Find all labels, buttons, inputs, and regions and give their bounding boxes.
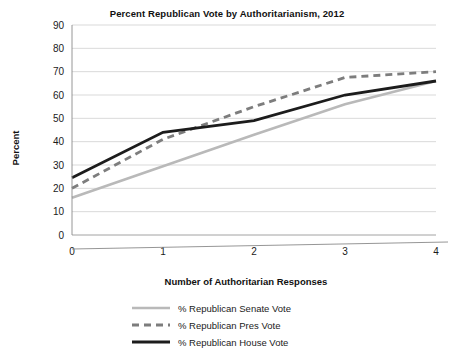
y-axis-tick-label: 30 — [53, 160, 65, 171]
y-axis-tick-label: 40 — [53, 136, 65, 147]
x-axis-tick-label: 2 — [251, 246, 257, 257]
series-line-0 — [72, 81, 436, 198]
y-axis-tick-label: 10 — [53, 206, 65, 217]
legend-label-1: % Republican Pres Vote — [178, 320, 280, 331]
axis-lines-group — [72, 25, 448, 249]
x-axis-tick-label: 0 — [69, 246, 75, 257]
y-axis-tick-label: 60 — [53, 90, 65, 101]
y-axis-tick-label: 90 — [53, 20, 65, 31]
chart-figure: Percent Republican Vote by Authoritarian… — [0, 0, 454, 351]
y-axis-tick-labels: 0102030405060708090 — [53, 20, 65, 241]
x-axis-title: Number of Authoritarian Responses — [165, 276, 328, 287]
chart-legend: % Republican Senate Vote% Republican Pre… — [132, 303, 291, 348]
chart-plot-area: 0102030405060708090 01234 Percent Number… — [0, 0, 454, 351]
x-axis-tick-label: 3 — [342, 246, 348, 257]
legend-label-0: % Republican Senate Vote — [178, 303, 291, 314]
gridlines-group — [72, 25, 436, 235]
y-axis-tick-label: 0 — [58, 230, 64, 241]
y-axis-tick-label: 70 — [53, 66, 65, 77]
y-axis-tick-label: 50 — [53, 113, 65, 124]
x-axis-tick-label: 4 — [433, 246, 439, 257]
legend-label-2: % Republican House Vote — [178, 337, 288, 348]
x-axis-line — [72, 242, 448, 249]
y-axis-tick-label: 80 — [53, 43, 65, 54]
y-axis-title: Percent — [10, 130, 21, 166]
series-lines-group — [72, 72, 436, 198]
y-axis-tick-label: 20 — [53, 183, 65, 194]
